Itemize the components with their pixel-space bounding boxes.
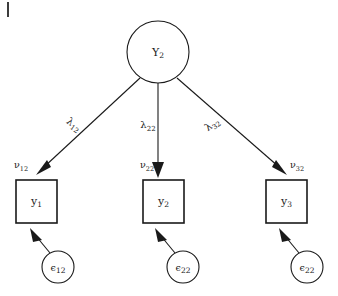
residual-node-eps22[interactable]: ϵ22 [167,251,199,283]
intercept-label-nu12: ν12 [14,159,28,173]
latent-node-eta2[interactable]: Y2 [127,21,189,83]
loading-label-lambda12: λ12 [63,115,83,135]
loading-subscript: 22 [147,125,156,133]
residual-node-eps12[interactable]: ϵ12 [42,251,74,283]
intercept-subscript: 32 [296,165,304,173]
indicator-node-y3[interactable]: y3 [266,180,307,223]
indicator-subscript: 2 [164,200,169,209]
latent-subscript: 2 [159,51,164,60]
corner-tick-mark [7,2,9,17]
loading-label-lambda22: λ22 [140,119,155,133]
residual-subscript: 22 [181,265,191,274]
arrowhead-eps12-to-y1 [30,228,42,242]
edge-eta2-to-y1 [44,78,140,167]
edge-eta2-to-y3 [177,78,279,167]
intercept-subscript: 12 [20,165,28,173]
indicator-subscript: 1 [37,200,42,209]
loading-label-lambda32: λ32 [203,115,223,135]
indicator-node-y2[interactable]: y2 [143,180,184,223]
arrowhead-eps22-to-y2 [155,228,167,242]
path-diagram-svg: Y2 y1 y2 y3 ϵ12 [0,0,338,296]
indicator-subscript: 3 [287,200,292,209]
intercept-label-nu32: ν32 [290,159,304,173]
loading-labels-group: λ12 λ22 λ32 [63,115,223,135]
intercept-label-nu22: ν22 [140,159,154,173]
indicator-node-y1[interactable]: y1 [16,180,57,223]
path-diagram-canvas: Y2 y1 y2 y3 ϵ12 [0,0,338,296]
residual-subscript: 22 [305,265,315,274]
intercept-subscript: 22 [146,165,154,173]
residual-node-eps32[interactable]: ϵ22 [291,251,323,283]
arrowhead-eps32-to-y3 [279,228,291,242]
residual-subscript: 12 [56,265,66,274]
residual-edges-group [30,228,299,253]
